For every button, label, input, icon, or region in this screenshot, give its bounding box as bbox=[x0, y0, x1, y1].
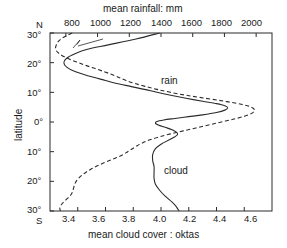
top-axis-title: mean rainfall: mm bbox=[103, 4, 182, 14]
bottom-axis-title: mean cloud cover : oktas bbox=[88, 230, 199, 240]
top-tick-label-1400: 1400 bbox=[151, 18, 172, 28]
hemisphere-label-south: S bbox=[36, 216, 42, 226]
top-axis-ticks bbox=[66, 33, 256, 37]
chart-figure: mean rainfall: mm 800 1000 1200 1400 160… bbox=[0, 0, 287, 248]
lat-tick-label-20s: 20° bbox=[27, 176, 41, 186]
bottom-tick-label-4-0: 4.0 bbox=[153, 214, 166, 224]
bottom-tick-label-4-2: 4.2 bbox=[183, 214, 196, 224]
bottom-tick-label-4-6: 4.6 bbox=[244, 214, 257, 224]
lat-tick-label-30s: 30° bbox=[27, 205, 41, 215]
series-annotation-cloud: cloud bbox=[164, 166, 188, 176]
top-tick-label-1200: 1200 bbox=[120, 18, 141, 28]
bottom-axis-ticks bbox=[78, 207, 245, 211]
lat-tick-label-10s: 10° bbox=[27, 147, 41, 157]
lat-tick-label-10n: 10° bbox=[27, 88, 41, 98]
series-annotation-rain: rain bbox=[161, 76, 178, 86]
bottom-tick-label-4-4: 4.4 bbox=[213, 214, 226, 224]
latitude-axis-ticks bbox=[50, 33, 54, 211]
lat-tick-label-30n: 30° bbox=[27, 30, 41, 40]
top-tick-label-1000: 1000 bbox=[90, 18, 111, 28]
series-line-cloud bbox=[64, 33, 228, 211]
top-tick-label-800: 800 bbox=[64, 18, 80, 28]
axes-frame bbox=[50, 33, 272, 211]
lat-tick-label-20n: 20° bbox=[27, 59, 41, 69]
top-tick-label-1600: 1600 bbox=[181, 18, 202, 28]
top-tick-label-1800: 1800 bbox=[211, 18, 232, 28]
top-tick-label-2000: 2000 bbox=[241, 18, 262, 28]
bottom-tick-label-3-8: 3.8 bbox=[122, 214, 135, 224]
bottom-tick-label-3-4: 3.4 bbox=[62, 214, 75, 224]
bottom-tick-label-3-6: 3.6 bbox=[92, 214, 105, 224]
lat-tick-label-0: 0° bbox=[34, 117, 43, 127]
y-axis-title: latitude bbox=[14, 109, 24, 141]
